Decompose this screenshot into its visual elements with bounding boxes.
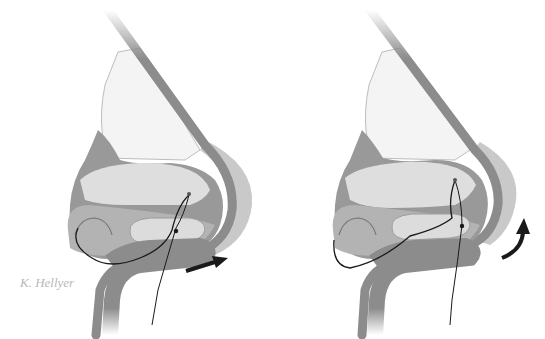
- upper-lateral-cartilage: [365, 48, 470, 160]
- suture-knot: [174, 229, 178, 233]
- columella-base: [110, 246, 208, 335]
- panel-left: [68, 10, 252, 335]
- illustration: K. Hellyer: [0, 0, 545, 339]
- suture-anchor: [187, 192, 191, 196]
- medial-crus: [392, 214, 470, 240]
- suture-knot: [460, 224, 464, 228]
- suture-anchor: [453, 178, 457, 182]
- nose-diagrams: [0, 0, 545, 339]
- panel-right: [333, 10, 530, 335]
- artist-signature: K. Hellyer: [20, 275, 74, 291]
